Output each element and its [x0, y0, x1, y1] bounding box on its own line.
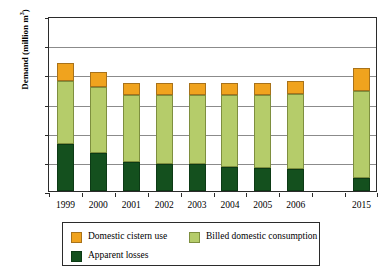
legend-item-apparent-losses: Apparent losses: [71, 246, 148, 266]
bar-2004: [221, 16, 238, 191]
bar-segment-billed-domestic-consumption-2003: [189, 95, 206, 164]
bar-segment-billed-domestic-consumption-2000: [90, 87, 107, 153]
y-tick-mark: [45, 18, 49, 19]
stacked-bar-chart: Demand (million m3) 05101520253019992000…: [0, 0, 383, 274]
y-tick-mark: [45, 106, 49, 107]
bar-segment-billed-domestic-consumption-2015: [353, 91, 370, 178]
bar-2005: [254, 16, 271, 191]
bar-segment-billed-domestic-consumption-2001: [123, 95, 140, 162]
bar-segment-domestic-cistern-use-2005: [254, 83, 271, 95]
legend-swatch-losses-icon: [71, 251, 82, 262]
y-axis-title-text: Demand (million m: [20, 15, 30, 90]
bar-segment-domestic-cistern-use-1999: [57, 63, 74, 81]
bar-segment-apparent-losses-2003: [189, 164, 206, 191]
y-tick-mark: [45, 76, 49, 77]
y-axis-title-tail: ): [20, 9, 30, 12]
x-tick-label-2006: 2006: [276, 200, 316, 210]
x-tick-label-2015: 2015: [342, 200, 382, 210]
bar-segment-domestic-cistern-use-2004: [221, 83, 238, 95]
legend-swatch-cistern-icon: [71, 232, 82, 243]
bar-2003: [189, 16, 206, 191]
bar-2002: [156, 16, 173, 191]
x-tick-mark: [148, 193, 149, 197]
bar-segment-billed-domestic-consumption-2004: [221, 95, 238, 166]
bar-segment-domestic-cistern-use-2002: [156, 83, 173, 95]
bar-segment-apparent-losses-2005: [254, 168, 271, 191]
bar-segment-billed-domestic-consumption-2006: [287, 94, 304, 169]
bar-2001: [123, 16, 140, 191]
bar-2000: [90, 16, 107, 191]
bar-segment-apparent-losses-2006: [287, 169, 304, 191]
x-tick-mark: [345, 193, 346, 197]
x-tick-mark: [214, 193, 215, 197]
y-axis-title-exponent: 3: [19, 12, 25, 15]
legend-item-domestic-cistern-use: Domestic cistern use: [71, 227, 167, 247]
bar-2006: [287, 16, 304, 191]
legend-item-billed-domestic-consumption: Billed domestic consumption: [189, 227, 317, 247]
bar-segment-billed-domestic-consumption-1999: [57, 81, 74, 145]
bar-segment-apparent-losses-1999: [57, 144, 74, 191]
x-tick-mark: [82, 193, 83, 197]
bar-2015: [353, 16, 370, 191]
x-tick-mark: [181, 193, 182, 197]
bar-segment-apparent-losses-2002: [156, 164, 173, 191]
bar-segment-billed-domestic-consumption-2002: [156, 95, 173, 163]
x-tick-mark: [279, 193, 280, 197]
y-tick-mark: [45, 164, 49, 165]
legend: Domestic cistern use Billed domestic con…: [62, 222, 320, 266]
legend-label-losses: Apparent losses: [88, 251, 148, 261]
x-tick-mark: [49, 193, 50, 197]
bar-segment-domestic-cistern-use-2015: [353, 68, 370, 91]
bar-segment-apparent-losses-2004: [221, 167, 238, 192]
bar-segment-apparent-losses-2000: [90, 153, 107, 191]
y-tick-mark: [45, 135, 49, 136]
bar-segment-domestic-cistern-use-2006: [287, 81, 304, 94]
legend-swatch-billed-icon: [189, 232, 200, 243]
x-tick-mark: [246, 193, 247, 197]
bar-1999: [57, 16, 74, 191]
legend-label-cistern: Domestic cistern use: [88, 232, 167, 242]
y-tick-mark: [45, 47, 49, 48]
bar-segment-billed-domestic-consumption-2005: [254, 95, 271, 167]
y-axis-title: Demand (million m3): [19, 0, 30, 110]
bar-segment-domestic-cistern-use-2003: [189, 83, 206, 95]
x-tick-mark: [377, 193, 378, 197]
bar-segment-domestic-cistern-use-2001: [123, 83, 140, 95]
bar-segment-apparent-losses-2015: [353, 178, 370, 191]
legend-label-billed: Billed domestic consumption: [206, 232, 317, 242]
bar-segment-domestic-cistern-use-2000: [90, 72, 107, 87]
x-tick-mark: [115, 193, 116, 197]
bar-segment-apparent-losses-2001: [123, 162, 140, 191]
plot-area: 0510152025301999200020012002200320042005…: [48, 17, 377, 192]
x-tick-mark: [312, 193, 313, 197]
